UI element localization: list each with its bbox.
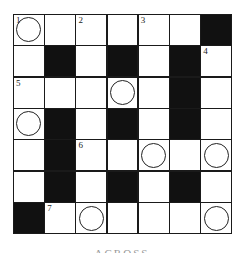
grid-cell[interactable] [139,172,169,202]
caption: ACROSS [0,244,244,253]
grid-cell[interactable] [14,46,44,76]
clue-number: 2 [78,15,83,25]
circle-icon [16,111,41,136]
grid-cell[interactable] [139,140,169,170]
grid-cell[interactable] [170,203,200,233]
grid-cell[interactable] [108,203,138,233]
circle-icon [204,206,229,231]
grid-cell[interactable] [170,15,200,45]
black-cell [108,46,138,76]
circle-icon [79,206,104,231]
grid-cell[interactable] [139,109,169,139]
clue-number: 4 [203,46,208,56]
grid-cell[interactable] [201,78,231,108]
grid-cell[interactable]: 7 [45,203,75,233]
grid-cell[interactable]: 1 [14,15,44,45]
grid-cell[interactable] [139,203,169,233]
grid-cell[interactable] [14,172,44,202]
circle-icon [204,143,229,168]
grid-cell[interactable]: 4 [201,46,231,76]
grid-cell[interactable] [14,140,44,170]
black-cell [45,172,75,202]
black-cell [170,172,200,202]
black-cell [14,203,44,233]
black-cell [108,172,138,202]
black-cell [108,109,138,139]
grid-cell[interactable] [108,140,138,170]
black-cell [45,109,75,139]
grid-cell[interactable] [201,140,231,170]
grid-cell[interactable] [139,46,169,76]
grid-cell[interactable] [201,172,231,202]
grid-cell[interactable] [76,78,106,108]
clue-number: 5 [16,78,21,88]
grid-cell[interactable] [76,172,106,202]
circle-icon [110,80,135,105]
grid-cell[interactable] [201,203,231,233]
grid-cell[interactable]: 3 [139,15,169,45]
black-cell [45,46,75,76]
grid-cell[interactable] [45,78,75,108]
clue-number: 7 [47,203,52,213]
grid-cell[interactable] [76,46,106,76]
black-cell [45,140,75,170]
grid-cell[interactable] [108,78,138,108]
black-cell [170,46,200,76]
grid-cell[interactable] [170,140,200,170]
grid-cell[interactable] [201,109,231,139]
grid-cell[interactable] [139,78,169,108]
grid-cell[interactable] [108,15,138,45]
crossword-grid: 1234567 [13,14,232,234]
grid-cell[interactable] [14,109,44,139]
clue-number: 6 [78,140,83,150]
grid-cell[interactable]: 2 [76,15,106,45]
grid-cell[interactable]: 6 [76,140,106,170]
grid-cell[interactable] [76,109,106,139]
black-cell [170,109,200,139]
grid-cell[interactable]: 5 [14,78,44,108]
black-cell [170,78,200,108]
grid-cell[interactable] [45,15,75,45]
circle-icon [16,17,41,42]
black-cell [201,15,231,45]
clue-number: 3 [141,15,146,25]
grid-cell[interactable] [76,203,106,233]
circle-icon [141,143,166,168]
